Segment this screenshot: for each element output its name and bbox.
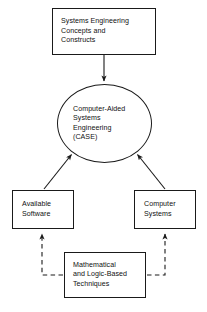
node-systems-engineering-label: Systems Engineering Concepts and Constru… [53, 17, 155, 45]
node-available-software-label: Available Software [13, 200, 73, 219]
node-mathematical-techniques[interactable]: Mathematical and Logic-Based Techniques [64, 252, 146, 298]
node-computer-systems-label: Computer Systems [135, 200, 195, 219]
edge-software-to-case [44, 155, 72, 190]
node-computer-systems[interactable]: Computer Systems [134, 190, 196, 229]
node-case-label: Computer-Aided Systems Engineering (CASE… [58, 105, 151, 143]
node-case[interactable]: Computer-Aided Systems Engineering (CASE… [57, 84, 152, 163]
node-available-software[interactable]: Available Software [12, 190, 74, 229]
edge-math-to-software [42, 234, 63, 275]
diagram-canvas: Systems Engineering Concepts and Constru… [0, 0, 207, 312]
edge-math-to-computer [147, 234, 165, 275]
node-mathematical-techniques-label: Mathematical and Logic-Based Techniques [65, 261, 145, 289]
node-systems-engineering[interactable]: Systems Engineering Concepts and Constru… [52, 8, 156, 55]
edge-computer-to-case [138, 155, 166, 190]
